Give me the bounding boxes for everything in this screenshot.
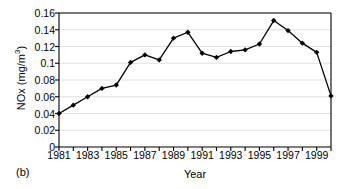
y-axis-tick-label-text: 0.02: [26, 125, 55, 135]
y-axis-label: NOx (mg/m3): [10, 3, 26, 153]
data-point-marker: [56, 111, 61, 116]
y-axis-label-exponent: 3: [13, 50, 22, 54]
y-axis-tick-label: 0.1: [26, 58, 55, 68]
y-axis-label-close: ): [15, 46, 27, 50]
data-point-marker: [85, 94, 90, 99]
data-point-marker: [228, 49, 233, 54]
x-axis-label: Year: [59, 168, 331, 181]
y-axis-label-text: NOx (mg/m: [15, 54, 27, 110]
y-axis-tick-label: 0.08: [26, 75, 55, 85]
data-point-marker: [99, 86, 104, 91]
data-point-marker: [242, 47, 247, 52]
y-axis-tick-label: 0.14: [26, 25, 55, 35]
y-axis-tick-label: 0.12: [26, 42, 55, 52]
y-axis-tick-label-text: 0.1: [26, 58, 55, 68]
x-axis-tick-label: 1999: [297, 149, 337, 161]
data-series-line: [59, 21, 331, 114]
y-axis-tick-label-text: 0.14: [26, 25, 55, 35]
data-point-marker: [71, 102, 76, 107]
figure-panel-b: NOx (mg/m3) 00.020.040.060.080.10.120.14…: [0, 0, 348, 189]
y-axis-tick-label-text: 0.08: [26, 75, 55, 85]
panel-caption: (b): [16, 166, 29, 179]
y-axis-tick-label: 0.02: [26, 125, 55, 135]
y-axis-tick-label-text: 0.04: [26, 109, 55, 119]
y-axis-tick-label-text: 0.16: [26, 8, 55, 18]
y-axis-tick-label-text: 0.12: [26, 42, 55, 52]
y-axis-tick-label: 0.06: [26, 92, 55, 102]
data-point-marker: [142, 52, 147, 57]
y-axis-tick-label-text: 0.06: [26, 92, 55, 102]
data-point-marker: [328, 93, 333, 98]
y-axis-tick-label: 0.04: [26, 109, 55, 119]
y-axis-tick-label: 0.16: [26, 8, 55, 18]
data-point-marker: [214, 55, 219, 60]
